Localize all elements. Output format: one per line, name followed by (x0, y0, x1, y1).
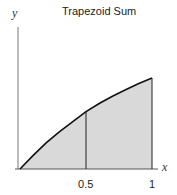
plot-area (0, 0, 177, 195)
